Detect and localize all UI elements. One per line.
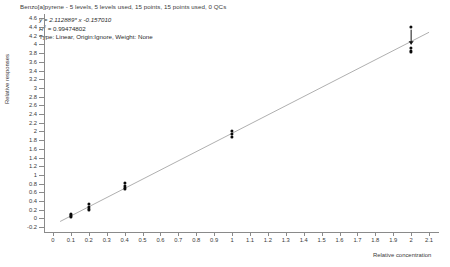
x-tick	[160, 232, 161, 236]
y-tick	[39, 27, 44, 28]
x-tick-label: 1.6	[335, 237, 343, 243]
y-tick	[39, 184, 44, 185]
x-tick	[286, 232, 287, 236]
y-tick	[39, 131, 44, 132]
r-squared-text: R2 = 0.99474802	[39, 25, 153, 34]
data-point	[230, 136, 233, 139]
y-tick	[39, 123, 44, 124]
x-tick-label: 0.8	[192, 237, 200, 243]
y-tick	[39, 227, 44, 228]
data-point	[123, 187, 126, 190]
x-tick-label: 0.7	[174, 237, 182, 243]
y-tick	[39, 97, 44, 98]
y-tick-label: 2.8	[29, 94, 37, 100]
y-tick-label: 3.8	[29, 50, 37, 56]
x-tick	[357, 232, 358, 236]
x-tick-label: 0.3	[103, 237, 111, 243]
data-point	[87, 208, 90, 211]
x-tick	[411, 232, 412, 236]
x-tick-label: 2	[410, 237, 413, 243]
y-tick	[39, 88, 44, 89]
y-tick	[39, 210, 44, 211]
y-tick-label: 3.4	[29, 68, 37, 74]
y-tick	[39, 201, 44, 202]
x-tick-label: 0.5	[138, 237, 146, 243]
y-tick-label: 4	[34, 41, 37, 47]
y-tick	[39, 18, 44, 19]
y-tick	[39, 166, 44, 167]
y-tick	[39, 53, 44, 54]
chart-title: Benzo[a]pyrene - 5 levels, 5 levels used…	[20, 3, 226, 10]
x-tick	[214, 232, 215, 236]
x-tick	[340, 232, 341, 236]
y-tick-label: 1.2	[29, 163, 37, 169]
x-tick	[393, 232, 394, 236]
x-tick-label: 1.1	[246, 237, 254, 243]
y-tick-label: 0.6	[29, 189, 37, 195]
x-tick	[53, 232, 54, 236]
fit-annotation-block: y = 2.112889* x -0.157010 R2 = 0.9947480…	[39, 16, 153, 42]
y-tick	[39, 158, 44, 159]
y-tick	[39, 44, 44, 45]
x-tick	[250, 232, 251, 236]
x-tick	[304, 232, 305, 236]
x-tick-label: 0.4	[121, 237, 129, 243]
x-tick-label: 0.2	[85, 237, 93, 243]
x-tick	[232, 232, 233, 236]
y-tick-label: 3	[34, 85, 37, 91]
x-tick	[178, 232, 179, 236]
x-tick-label: 0.1	[67, 237, 75, 243]
x-axis-line	[44, 232, 439, 233]
y-tick-label: 0.2	[29, 207, 37, 213]
y-tick-label: 3.2	[29, 76, 37, 82]
x-tick-label: 1.3	[282, 237, 290, 243]
y-tick	[39, 71, 44, 72]
r-squared-value: = 0.99474802	[46, 25, 86, 32]
x-tick-label: 1	[230, 237, 233, 243]
y-tick-label: 1	[34, 172, 37, 178]
x-tick-label: 1.7	[353, 237, 361, 243]
x-tick-label: 0	[51, 237, 54, 243]
calibration-curve-screenshot: Benzo[a]pyrene - 5 levels, 5 levels used…	[0, 0, 450, 267]
x-tick-label: 1.9	[389, 237, 397, 243]
x-tick-label: 0.9	[210, 237, 218, 243]
x-tick-label: 1.5	[318, 237, 326, 243]
data-point	[410, 50, 413, 53]
y-tick-label: 3.6	[29, 59, 37, 65]
x-tick	[107, 232, 108, 236]
x-tick	[429, 232, 430, 236]
x-tick	[375, 232, 376, 236]
y-tick-label: 4.2	[29, 33, 37, 39]
x-tick	[71, 232, 72, 236]
fit-type-text: Type: Linear, Origin:Ignore, Weight: Non…	[39, 33, 153, 42]
x-tick	[322, 232, 323, 236]
x-tick	[143, 232, 144, 236]
y-tick-label: 2.4	[29, 111, 37, 117]
y-tick-label: 2.2	[29, 120, 37, 126]
y-tick-label: 0.4	[29, 198, 37, 204]
y-tick	[39, 140, 44, 141]
y-tick	[39, 114, 44, 115]
y-tick	[39, 218, 44, 219]
y-tick-label: 1.4	[29, 155, 37, 161]
x-tick-label: 1.8	[371, 237, 379, 243]
y-tick-label: 0	[34, 215, 37, 221]
x-tick-label: 0.6	[156, 237, 164, 243]
x-tick-label: 1.2	[264, 237, 272, 243]
y-tick-label: 2	[34, 128, 37, 134]
y-tick	[39, 105, 44, 106]
y-axis-tick-labels: 4.64.44.243.83.63.43.232.82.62.42.221.81…	[0, 0, 38, 267]
y-tick	[39, 149, 44, 150]
y-tick-label: 1.6	[29, 146, 37, 152]
data-point	[410, 25, 413, 28]
y-tick-label: 4.6	[29, 15, 37, 21]
y-tick-label: 2.6	[29, 102, 37, 108]
x-tick	[89, 232, 90, 236]
y-tick	[39, 62, 44, 63]
x-axis-title: Relative concentration	[373, 252, 431, 258]
y-tick-label: -0.2	[27, 224, 37, 230]
x-tick-label: 1.4	[300, 237, 308, 243]
y-tick	[39, 36, 44, 37]
x-tick	[196, 232, 197, 236]
y-tick-label: 4.4	[29, 24, 37, 30]
